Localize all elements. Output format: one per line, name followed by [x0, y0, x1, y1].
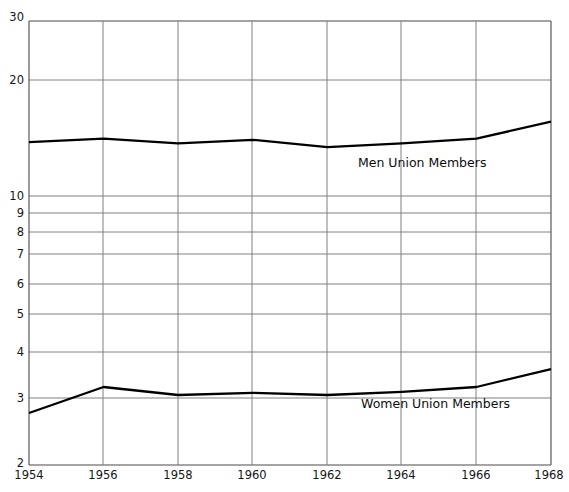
ytick-label-5: 5: [0, 308, 24, 320]
line-chart-plot: [0, 0, 569, 492]
ytick-label-4: 4: [0, 346, 24, 358]
series-label-women: Women Union Members: [361, 397, 510, 411]
xtick-label-1960: 1960: [232, 469, 272, 481]
ytick-label-10: 10: [0, 190, 24, 202]
ytick-label-30: 30: [0, 11, 24, 23]
chart-container: 30 20 10 9 8 7 6 5 4 3 2 1954 1956 1958 …: [0, 0, 569, 492]
series-label-men: Men Union Members: [358, 156, 486, 170]
ytick-label-8: 8: [0, 226, 24, 238]
xtick-label-1964: 1964: [381, 469, 421, 481]
xtick-label-1962: 1962: [307, 469, 347, 481]
xtick-label-1954: 1954: [9, 469, 49, 481]
xtick-label-1956: 1956: [83, 469, 123, 481]
ytick-label-7: 7: [0, 248, 24, 260]
series-line-men: [29, 122, 551, 147]
ytick-label-3: 3: [0, 392, 24, 404]
xtick-label-1958: 1958: [158, 469, 198, 481]
ytick-label-20: 20: [0, 74, 24, 86]
ytick-label-9: 9: [0, 207, 24, 219]
xtick-label-1966: 1966: [456, 469, 496, 481]
xtick-label-1968: 1968: [529, 469, 569, 481]
ytick-label-6: 6: [0, 278, 24, 290]
